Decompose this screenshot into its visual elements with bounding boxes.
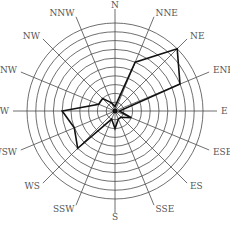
direction-label-nnw: NNW (49, 8, 75, 18)
wind-rose-chart: NNNENEENEEESEESSSESSSWWSWSWWWNWNWNNW (0, 0, 230, 227)
direction-label-ne: NE (190, 31, 204, 41)
direction-label-ws: WS (25, 181, 40, 191)
direction-label-n: N (111, 0, 119, 10)
direction-label-ese: ESE (213, 147, 230, 157)
center-hub (113, 109, 118, 114)
direction-label-es: ES (190, 181, 203, 191)
direction-label-e: E (221, 106, 228, 116)
direction-label-s: S (112, 212, 118, 222)
grid-spoke (115, 111, 187, 183)
direction-label-nne: NNE (156, 8, 178, 18)
direction-label-w: W (0, 106, 10, 116)
direction-label-ene: ENE (213, 65, 230, 75)
direction-label-nw: NW (23, 31, 41, 41)
direction-label-wnw: WNW (0, 65, 18, 75)
direction-label-ssw: SSW (53, 204, 75, 214)
direction-label-wsw: WSW (0, 147, 18, 157)
direction-label-sse: SSE (156, 204, 175, 214)
